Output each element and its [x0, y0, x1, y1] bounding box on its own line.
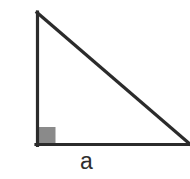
triangle-hypotenuse	[37, 13, 190, 146]
triangle-graphic	[0, 0, 190, 179]
right-triangle-figure: a a	[0, 0, 190, 179]
label-horizontal-leg: a	[80, 150, 93, 173]
right-angle-marker-icon	[38, 127, 56, 145]
